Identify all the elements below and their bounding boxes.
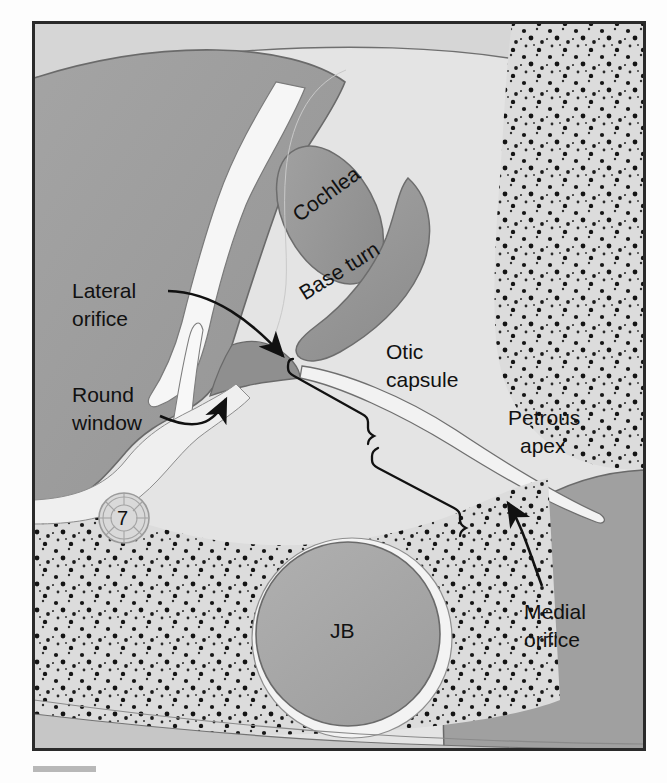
anatomy-diagram: Lateral orifice Round window Cochlea Bas…: [0, 0, 667, 783]
label-round-window-line1: Round: [72, 383, 134, 406]
figure-root: Lateral orifice Round window Cochlea Bas…: [0, 0, 667, 783]
label-petrous-apex-line2: apex: [520, 434, 566, 457]
label-round-window-line2: window: [71, 411, 143, 434]
petrous-apex-field: [494, 23, 644, 470]
label-lateral-orifice-line1: Lateral: [72, 279, 136, 302]
label-jugular-bulb: JB: [330, 619, 355, 642]
label-medial-orifice-line1: Medial: [524, 600, 586, 623]
label-otic-capsule-line2: capsule: [386, 368, 458, 391]
label-facial-nerve: 7: [117, 507, 128, 529]
label-lateral-orifice-line2: orifice: [72, 307, 128, 330]
label-medial-orifice-line2: orifice: [524, 628, 580, 651]
label-otic-capsule-line1: Otic: [386, 340, 423, 363]
label-petrous-apex-line1: Petrous: [508, 406, 580, 429]
scale-bar: [33, 766, 96, 772]
